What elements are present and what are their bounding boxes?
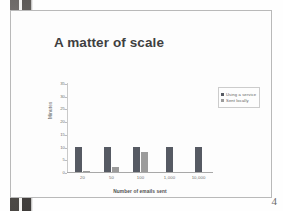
chart-legend: Using a serviceSent locally [218,87,260,108]
legend-swatch-icon [221,99,224,102]
x-tick-label: 1,000 [164,175,175,180]
bar [195,147,202,172]
bar [83,171,90,172]
y-tick-mark [65,135,67,136]
plot-area: 05101520253035 20501001,00010,000 [67,83,213,173]
bar [141,152,148,172]
bar-group: 50 [97,83,126,172]
bar-groups: 20501001,00010,000 [68,83,213,172]
bar [133,147,140,172]
page-title: A matter of scale [54,35,164,50]
bar [75,147,82,172]
x-tick-label: 50 [109,175,114,180]
x-tick-label: 20 [80,175,85,180]
legend-item[interactable]: Sent locally [221,98,256,103]
bar-chart: Minutes 05101520253035 20501001,00010,00… [49,81,221,198]
legend-label: Using a service [226,92,256,97]
y-tick-mark [65,122,67,123]
bar-group: 1,000 [155,83,184,172]
screenshot-root: A matter of scale Minutes 05101520253035… [0,0,283,211]
legend-label: Sent locally [226,98,249,103]
y-axis-title: Minutes [48,102,53,120]
bar [112,167,119,172]
y-tick-mark [65,148,67,149]
y-tick-mark [65,97,67,98]
bar-group: 10,000 [184,83,213,172]
x-tick-label: 100 [137,175,144,180]
page-number: 4 [272,195,278,207]
legend-item[interactable]: Using a service [221,92,256,97]
slide-canvas: A matter of scale Minutes 05101520253035… [10,10,272,198]
x-axis-line [67,172,213,173]
bar-group: 20 [68,83,97,172]
bar [104,147,111,172]
x-axis-title: Number of emails sent [67,189,213,194]
y-tick-mark [65,84,67,85]
y-tick-mark [65,173,67,174]
x-tick-label: 10,000 [192,175,206,180]
bar [166,147,173,172]
legend-swatch-icon [221,93,224,96]
y-tick-mark [65,160,67,161]
y-tick-mark [65,109,67,110]
bar-group: 100 [126,83,155,172]
